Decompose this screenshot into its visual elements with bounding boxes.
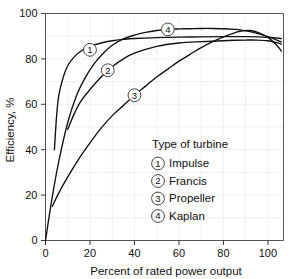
- chart-background: [0, 0, 292, 279]
- legend-item-propeller: 3Propeller: [152, 192, 216, 205]
- curve-marker-3: 3: [128, 89, 141, 102]
- legend-item-label: Impulse: [169, 157, 209, 169]
- x-tick-label: 80: [217, 247, 229, 259]
- x-tick-label: 20: [84, 247, 96, 259]
- legend-marker-number: 2: [155, 175, 160, 186]
- y-tick-label: 0: [31, 234, 37, 246]
- x-tick-label: 60: [173, 247, 185, 259]
- x-tick-label: 100: [259, 247, 277, 259]
- curve-marker-number: 3: [132, 90, 137, 101]
- curve-marker-4: 4: [161, 23, 174, 36]
- curve-marker-1: 1: [84, 43, 97, 56]
- x-tick-label: 40: [128, 247, 140, 259]
- legend-marker-number: 3: [155, 193, 160, 204]
- y-tick-label: 40: [25, 144, 37, 156]
- y-tick-label: 80: [25, 53, 37, 65]
- curve-marker-2: 2: [101, 64, 114, 77]
- efficiency-chart: 020406080100 020406080100 1234 Percent o…: [0, 0, 292, 279]
- x-axis-title: Percent of rated power output: [90, 265, 242, 277]
- legend-marker-number: 4: [155, 210, 160, 221]
- legend-item-impulse: 1Impulse: [152, 157, 210, 170]
- chart-canvas: 020406080100 020406080100 1234 Percent o…: [0, 0, 292, 279]
- curve-marker-number: 2: [105, 65, 110, 76]
- y-tick-label: 20: [25, 189, 37, 201]
- y-tick-label: 60: [25, 98, 37, 110]
- curve-marker-number: 4: [165, 24, 170, 35]
- y-axis-title: Efficiency, %: [4, 98, 16, 163]
- y-tick-label: 100: [19, 7, 37, 19]
- curve-marker-number: 1: [87, 44, 92, 55]
- legend-item-kaplan: 4Kaplan: [152, 210, 205, 223]
- legend-item-francis: 2Francis: [152, 175, 207, 188]
- legend-title: Type of turbine: [152, 138, 228, 150]
- legend-item-label: Propeller: [169, 192, 215, 204]
- legend-marker-number: 1: [155, 158, 160, 169]
- x-tick-label: 0: [42, 247, 48, 259]
- legend-item-label: Kaplan: [169, 210, 205, 222]
- legend-item-label: Francis: [169, 175, 207, 187]
